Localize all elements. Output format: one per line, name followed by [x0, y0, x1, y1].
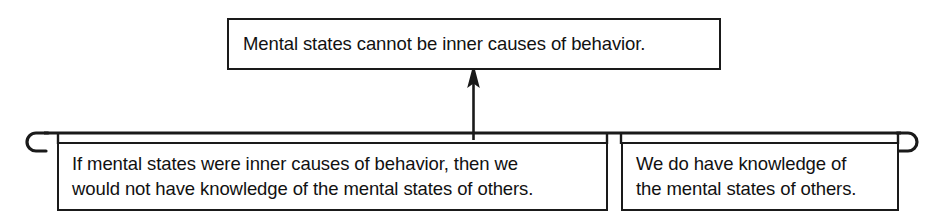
conclusion-text: Mental states cannot be inner causes of …	[243, 32, 645, 57]
premise-2-text: We do have knowledge of the mental state…	[636, 152, 856, 201]
premise-1-box: If mental states were inner causes of be…	[57, 142, 608, 211]
premise-1-text: If mental states were inner causes of be…	[72, 152, 533, 201]
inference-arrow-icon	[455, 62, 495, 140]
conclusion-box: Mental states cannot be inner causes of …	[227, 18, 721, 70]
argument-diagram: Mental states cannot be inner causes of …	[0, 0, 943, 221]
premise-2-box: We do have knowledge of the mental state…	[621, 142, 899, 211]
